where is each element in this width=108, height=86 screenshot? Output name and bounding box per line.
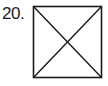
square-with-diagonals-figure [0,0,108,86]
